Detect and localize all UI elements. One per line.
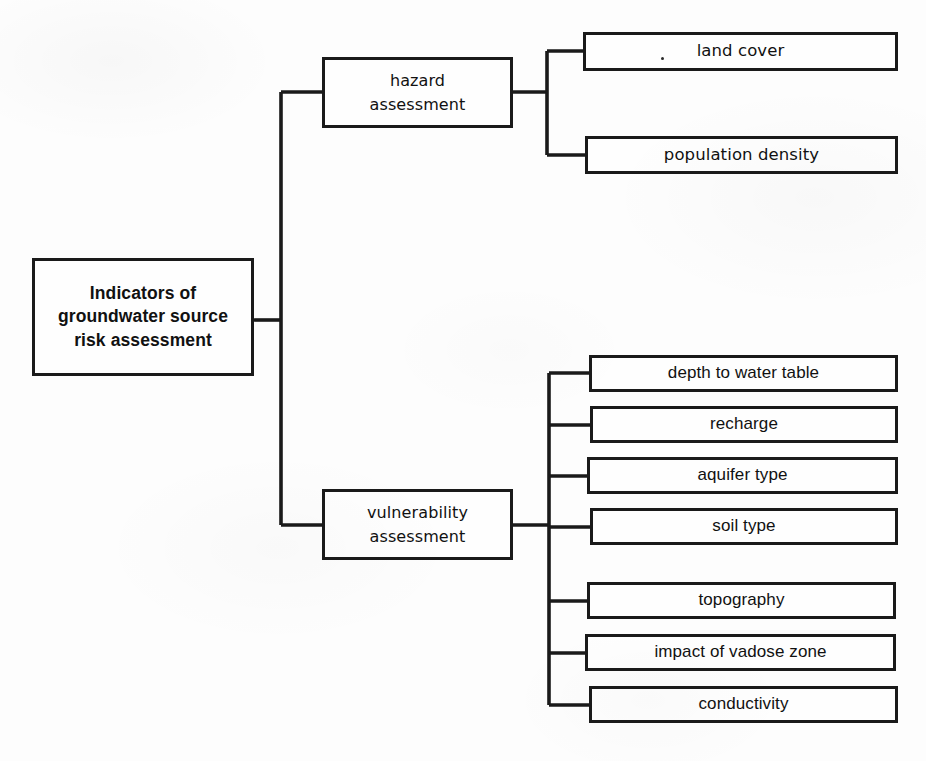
stray-ink-dot (661, 57, 664, 60)
node-hazard-assessment-label: hazard assessment (370, 69, 466, 115)
node-recharge[interactable]: recharge (590, 406, 898, 443)
node-depth-to-water-table-label: depth to water table (668, 363, 819, 384)
node-soil-type-label: soil type (712, 516, 775, 537)
node-land-cover[interactable]: land cover (583, 32, 898, 71)
node-population-density[interactable]: population density (585, 136, 898, 174)
node-conductivity-label: conductivity (698, 694, 788, 715)
node-vulnerability-assessment[interactable]: vulnerability assessment (322, 489, 513, 560)
node-land-cover-label: land cover (697, 41, 785, 61)
node-impact-of-vadose-zone[interactable]: impact of vadose zone (585, 634, 896, 671)
node-vulnerability-assessment-label: vulnerability assessment (367, 501, 468, 547)
node-topography-label: topography (698, 590, 784, 611)
node-hazard-assessment[interactable]: hazard assessment (322, 57, 513, 128)
node-root-indicators[interactable]: Indicators of groundwater source risk as… (32, 258, 254, 376)
node-impact-of-vadose-zone-label: impact of vadose zone (654, 642, 826, 663)
diagram-canvas: Indicators of groundwater source risk as… (0, 0, 926, 761)
node-population-density-label: population density (664, 145, 819, 165)
node-recharge-label: recharge (710, 414, 778, 435)
node-aquifer-type-label: aquifer type (697, 465, 787, 486)
node-soil-type[interactable]: soil type (590, 508, 898, 545)
node-aquifer-type[interactable]: aquifer type (587, 457, 898, 494)
node-root-label: Indicators of groundwater source risk as… (58, 282, 228, 351)
node-conductivity[interactable]: conductivity (589, 686, 898, 723)
node-topography[interactable]: topography (587, 582, 896, 619)
node-depth-to-water-table[interactable]: depth to water table (589, 355, 898, 392)
